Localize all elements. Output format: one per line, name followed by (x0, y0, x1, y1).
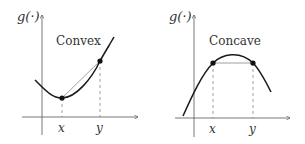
concave-curve (183, 55, 271, 116)
concave-x-tick: x (209, 122, 216, 136)
convex-y-axis-label: g(·) (17, 9, 40, 24)
convex-y-tick: y (95, 121, 103, 135)
concave-y-axis-label: g(·) (169, 9, 192, 24)
concave-y-tick: y (248, 122, 256, 136)
convex-panel: g(·) Convex x y (17, 9, 138, 135)
convex-x-tick: x (58, 121, 65, 135)
convex-title: Convex (56, 34, 101, 48)
concave-point-x (210, 60, 215, 65)
convex-point-y (97, 58, 102, 63)
concave-title: Concave (209, 34, 261, 48)
concave-point-y (250, 60, 255, 65)
convex-chord (62, 61, 100, 98)
concave-panel: g(·) Concave x y (169, 9, 290, 137)
convexity-diagram: g(·) Convex x y g(·) Concave x y (0, 0, 305, 144)
convex-point-x (59, 95, 64, 100)
